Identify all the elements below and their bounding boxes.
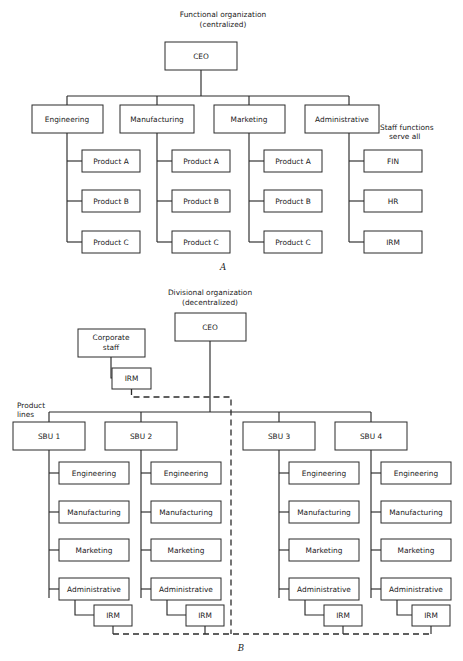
panel-a-child-label-3-2: Product B [275, 197, 310, 206]
panel-b-child-label-4-3: Marketing [398, 546, 435, 555]
panel-a-title-line2: (centralized) [200, 20, 247, 29]
panel-a-ceo-label: CEO [193, 52, 209, 61]
panel-b-column-sbu-1: SBU 1 Engineering Manufacturing Marketin… [13, 422, 132, 634]
panel-a-child-label-2-2: Product B [183, 197, 218, 206]
panel-b-corporate-staff-line1: Corporate [93, 333, 130, 342]
panel-a-title-line1: Functional organization [180, 10, 267, 19]
panel-b-corporate-staff-line2: staff [103, 343, 120, 352]
panel-a-head-label-1: Engineering [45, 115, 90, 124]
panel-b: Divisional organization (decentralized) … [13, 288, 451, 653]
panel-b-child-label-3-2: Manufacturing [297, 508, 351, 517]
panel-b-child-label-1-4: Administrative [67, 585, 121, 594]
panel-a-child-label-4-3: IRM [386, 238, 400, 247]
panel-b-admin-to-irm-2 [167, 600, 186, 615]
panel-a-child-label-3-3: Product C [275, 238, 311, 247]
panel-a-child-label-4-1: FIN [387, 157, 399, 166]
panel-a-child-label-2-1: Product A [183, 157, 218, 166]
panel-a-child-label-1-2: Product B [93, 197, 128, 206]
panel-b-figure-letter: B [237, 643, 244, 653]
panel-b-irm-label-4: IRM [424, 611, 438, 620]
panel-b-child-label-4-4: Administrative [389, 585, 443, 594]
panel-a-child-label-3-1: Product A [275, 157, 310, 166]
panel-b-admin-to-irm-1 [75, 600, 94, 615]
panel-a-head-label-3: Marketing [231, 115, 268, 124]
panel-b-title-line1: Divisional organization [168, 288, 252, 297]
panel-b-child-label-2-2: Manufacturing [159, 508, 213, 517]
panel-b-head-label-1: SBU 1 [38, 432, 61, 441]
panel-a-figure-letter: A [219, 262, 226, 272]
panel-b-column-sbu-3: SBU 3 Engineering Manufacturing Marketin… [243, 422, 362, 634]
panel-b-irm-label-3: IRM [336, 611, 350, 620]
panel-b-irm-label-2: IRM [198, 611, 212, 620]
panel-a-child-label-1-1: Product A [93, 157, 128, 166]
panel-b-child-label-3-4: Administrative [297, 585, 351, 594]
diagram-canvas: Functional organization (centralized) CE… [0, 0, 463, 661]
panel-a-child-label-4-2: HR [388, 197, 399, 206]
panel-a-annotation-line2: serve all [389, 132, 420, 141]
panel-b-ceo-label: CEO [202, 323, 218, 332]
panel-a-child-label-2-3: Product C [183, 238, 219, 247]
panel-b-child-label-2-1: Engineering [164, 469, 209, 478]
panel-b-child-label-1-3: Marketing [76, 546, 113, 555]
panel-b-child-label-2-3: Marketing [168, 546, 205, 555]
panel-a-head-label-4: Administrative [315, 115, 369, 124]
panel-b-child-label-1-2: Manufacturing [67, 508, 121, 517]
panel-a-child-label-1-3: Product C [93, 238, 129, 247]
panel-b-admin-to-irm-4 [397, 600, 412, 615]
panel-b-child-label-3-3: Marketing [306, 546, 343, 555]
panel-b-column-sbu-2: SBU 2 Engineering Manufacturing Marketin… [105, 422, 224, 634]
panel-b-child-label-4-2: Manufacturing [389, 508, 443, 517]
panel-b-irm-label-1: IRM [106, 611, 120, 620]
panel-a-head-label-2: Manufacturing [130, 115, 184, 124]
panel-b-head-label-4: SBU 4 [360, 432, 383, 441]
panel-b-head-label-2: SBU 2 [130, 432, 152, 441]
panel-b-product-lines-line1: Product [17, 401, 45, 410]
panel-b-child-label-4-1: Engineering [394, 469, 439, 478]
panel-b-head-label-3: SBU 3 [268, 432, 291, 441]
panel-b-title-line2: (decentralized) [182, 298, 238, 307]
panel-b-admin-to-irm-3 [305, 600, 324, 615]
panel-b-child-label-2-4: Administrative [159, 585, 213, 594]
panel-b-child-label-3-1: Engineering [302, 469, 347, 478]
panel-b-corporate-irm-label: IRM [125, 374, 139, 383]
org-chart-figure: Functional organization (centralized) CE… [0, 0, 463, 661]
panel-b-column-sbu-4: SBU 4 Engineering Manufacturing Marketin… [335, 422, 451, 634]
panel-a-annotation-line1: Staff functions [380, 123, 434, 132]
panel-b-product-lines-line2: lines [17, 410, 34, 419]
panel-a: Functional organization (centralized) CE… [32, 10, 434, 272]
panel-b-child-label-1-1: Engineering [72, 469, 117, 478]
